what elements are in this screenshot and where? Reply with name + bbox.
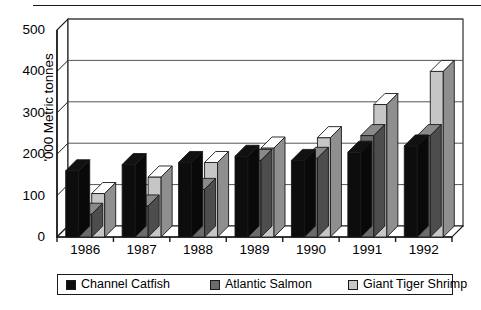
y-tick-label: 100	[5, 189, 45, 203]
bar-side	[248, 145, 259, 237]
x-tick-label: 1989	[225, 243, 285, 257]
legend-swatch-icon	[66, 280, 76, 290]
bar-side	[387, 94, 398, 237]
bar-side	[361, 141, 372, 237]
legend-item[interactable]: Atlantic Salmon	[210, 278, 312, 292]
legend-swatch-icon	[348, 280, 358, 290]
x-tick-label: 1987	[112, 243, 172, 257]
y-tick-label: 300	[5, 106, 45, 120]
chart-legend: Channel CatfishAtlantic SalmonGiant Tige…	[57, 274, 453, 295]
y-tick-label: 500	[5, 23, 45, 37]
legend-label: Channel Catfish	[81, 278, 170, 291]
bar-side	[79, 160, 90, 237]
bar-front	[122, 165, 135, 237]
bar-front	[66, 171, 79, 237]
bar-side	[274, 137, 285, 237]
bar-side	[161, 166, 172, 237]
bar-front	[291, 160, 304, 237]
y-tick-label: 200	[5, 147, 45, 161]
bar-side	[330, 127, 341, 237]
bar-side	[135, 154, 146, 237]
bar-front	[179, 162, 192, 237]
legend-swatch-icon	[210, 280, 220, 290]
bar-side	[192, 151, 203, 237]
legend-item[interactable]: Channel Catfish	[66, 278, 170, 292]
bar-side	[417, 135, 428, 237]
bar-front	[235, 156, 248, 237]
legend-item[interactable]: Giant Tiger Shrimp	[348, 278, 467, 292]
bar-side	[374, 125, 385, 237]
bar-side	[205, 178, 216, 237]
bar-front	[348, 152, 361, 237]
x-tick-label: 1988	[168, 243, 228, 257]
bar-side	[443, 60, 454, 237]
bar-chart	[0, 0, 481, 310]
legend-label: Giant Tiger Shrimp	[363, 278, 467, 291]
x-tick-label: 1990	[281, 243, 341, 257]
chart-canvas	[0, 0, 481, 310]
y-tick-label: 0	[5, 230, 45, 244]
x-tick-label: 1992	[394, 243, 454, 257]
bar-front	[404, 146, 417, 237]
bar-side	[218, 151, 229, 237]
bar-side	[430, 125, 441, 237]
bar-side	[304, 149, 315, 237]
x-tick-label: 1986	[55, 243, 115, 257]
bar-side	[317, 147, 328, 237]
legend-label: Atlantic Salmon	[225, 278, 312, 291]
x-tick-label: 1991	[337, 243, 397, 257]
y-tick-label: 400	[5, 64, 45, 78]
bar-side	[261, 149, 272, 237]
